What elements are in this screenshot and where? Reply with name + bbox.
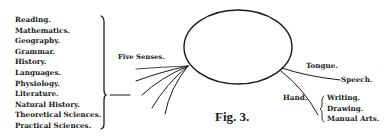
subject-item: Theoretical Sciences. — [15, 110, 101, 119]
tongue-label: Tongue. — [306, 61, 338, 70]
subject-item: Reading. — [15, 15, 51, 24]
subject-item: Natural History. — [15, 100, 80, 109]
speech-label: Speech. — [341, 75, 372, 84]
hand-output-item: Writing. — [326, 93, 360, 102]
subject-item: Grammar. — [15, 47, 55, 56]
subjects-list: Reading. Mathematics. Geography. Grammar… — [15, 15, 101, 130]
subject-item: Mathematics. — [15, 26, 70, 35]
subject-item: Practical Sciences. — [15, 121, 91, 130]
subject-item: Literature. — [15, 89, 59, 98]
subject-item: History. — [15, 57, 46, 66]
mind-ellipse — [184, 10, 292, 84]
subjects-bracket — [101, 16, 106, 129]
figure-caption: Fig. 3. — [215, 109, 249, 124]
five-senses-lines — [136, 66, 188, 114]
hand-output-item: Manual Arts. — [327, 114, 379, 123]
diagram-canvas: Reading. Mathematics. Geography. Grammar… — [0, 0, 391, 136]
subject-item: Languages. — [15, 68, 61, 77]
subject-item: Physiology. — [15, 79, 60, 88]
hand-output-item: Drawing. — [327, 104, 363, 113]
hand-outputs-brace — [320, 96, 324, 122]
five-senses-label: Five Senses. — [118, 53, 165, 61]
subject-item: Geography. — [15, 36, 60, 45]
hand-label: Hand. — [283, 93, 307, 102]
